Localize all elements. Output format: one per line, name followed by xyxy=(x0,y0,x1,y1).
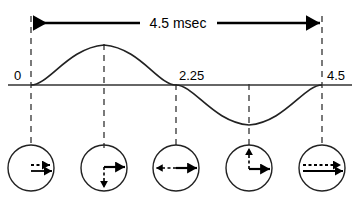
phasor-diagram-0 xyxy=(8,145,54,191)
phasor-circle-4 xyxy=(299,145,345,191)
x-tick-label-0: 0 xyxy=(14,68,21,83)
phasor-diagram-3 xyxy=(226,145,272,191)
phasor-diagram-1 xyxy=(81,145,127,191)
phasor-diagram-4 xyxy=(299,145,345,191)
phasor-circle-0 xyxy=(8,145,54,191)
span-label: 4.5 msec xyxy=(150,15,207,31)
x-tick-label-4p5: 4.5 xyxy=(327,68,345,83)
x-tick-label-2p25: 2.25 xyxy=(179,68,204,83)
waveform-phasor-figure: 4.5 msec 0 2.25 4.5 xyxy=(0,0,361,204)
guide-lines xyxy=(31,16,322,148)
span-arrow-group: 4.5 msec xyxy=(33,15,320,31)
figure-canvas: 4.5 msec 0 2.25 4.5 xyxy=(0,0,361,204)
phasor-diagram-2 xyxy=(153,145,199,191)
